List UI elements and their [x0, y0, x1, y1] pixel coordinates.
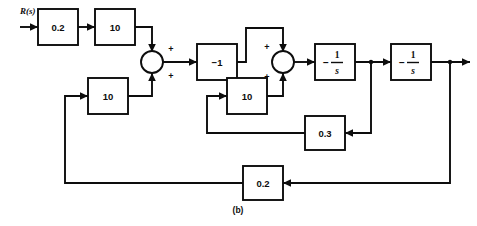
arrow-into-gain10inner: [219, 92, 227, 100]
block-label: −1: [212, 57, 224, 68]
block-label: 10: [242, 91, 253, 102]
integrator-minus-sign: −: [323, 57, 329, 68]
sum1-sign-top: +: [168, 44, 173, 54]
arrow-into-sum1-bottom: [148, 73, 156, 81]
sum-circle: [141, 51, 163, 73]
integrator-denominator: s: [410, 66, 415, 76]
block-integrator-2[interactable]: − 1 s: [391, 44, 431, 80]
arrow-into-gain10: [87, 23, 95, 31]
arrow-into-gain03: [345, 129, 353, 137]
block-gain-10-inner[interactable]: 10: [227, 78, 267, 114]
sum2-sign-top: +: [264, 42, 269, 52]
block-diagram-figure: 0.2 10 10 −1 10 − 1 s: [0, 0, 477, 226]
wire-gain10-to-sum1: [135, 27, 152, 52]
block-gain-0.2-forward[interactable]: 0.2: [38, 9, 78, 45]
junction-dot-integrator2-tap: [448, 60, 452, 64]
summing-junction-2[interactable]: + +: [264, 42, 294, 82]
sum1-sign-bottom: +: [168, 71, 173, 81]
arrow-into-integrator2: [383, 58, 391, 66]
sum-circle: [272, 51, 294, 73]
diagram-canvas: 0.2 10 10 −1 10 − 1 s: [0, 0, 477, 226]
arrow-into-gain10lower: [80, 92, 88, 100]
block-label: 10: [110, 22, 121, 33]
wire-gain10lower-to-sum1: [128, 73, 152, 96]
input-signal-label: R(s): [19, 6, 36, 16]
block-gain-10-forward[interactable]: 10: [95, 9, 135, 45]
block-gain-minus-1[interactable]: −1: [197, 44, 237, 80]
block-label: 0.2: [256, 178, 269, 189]
integrator-numerator: 1: [411, 50, 416, 60]
block-gain-10-lower-left[interactable]: 10: [88, 78, 128, 114]
block-label: 0.3: [318, 128, 331, 139]
block-gain-0.2-feedback[interactable]: 0.2: [243, 166, 283, 200]
block-label: 0.2: [51, 22, 64, 33]
block-integrator-1[interactable]: − 1 s: [315, 44, 355, 80]
arrow-into-neg1: [189, 58, 197, 66]
junction-dot-integrator1-tap: [369, 60, 373, 64]
integrator-denominator: s: [334, 66, 339, 76]
arrow-into-gain02: [30, 23, 38, 31]
arrow-output: [462, 58, 470, 66]
block-gain-0.3-feedback[interactable]: 0.3: [305, 116, 345, 150]
integrator-numerator: 1: [335, 50, 340, 60]
arrow-into-integrator1: [307, 58, 315, 66]
integrator-minus-sign: −: [399, 57, 405, 68]
block-label: 10: [103, 91, 114, 102]
sum2-sign-bottom: +: [264, 72, 269, 82]
arrow-into-sum2-bottom: [279, 73, 287, 81]
figure-caption: (b): [233, 205, 244, 215]
arrow-into-gain02fb: [283, 179, 291, 187]
